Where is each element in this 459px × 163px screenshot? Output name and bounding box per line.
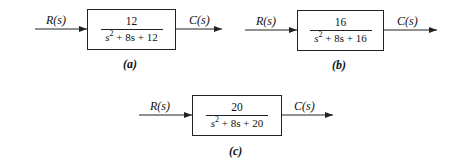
caption: (a) (123, 57, 137, 72)
input-label: R(s) (150, 100, 170, 112)
caption: (b) (332, 58, 346, 73)
denominator: s2 + 8s + 20 (211, 117, 263, 130)
caption: (c) (229, 144, 242, 159)
numerator: 16 (333, 16, 349, 29)
denominator: s2 + 8s + 12 (105, 31, 157, 44)
transfer-function-block: 20 s2 + 8s + 20 (192, 95, 282, 136)
numerator: 20 (229, 101, 245, 114)
signal-arrows (0, 0, 459, 163)
transfer-function-block: 12 s2 + 8s + 12 (87, 9, 176, 50)
transfer-function-block: 16 s2 + 8s + 16 (297, 10, 384, 51)
denominator: s2 + 8s + 16 (314, 32, 366, 45)
input-label: R(s) (46, 14, 66, 26)
input-label: R(s) (256, 15, 276, 27)
output-label: C(s) (294, 100, 315, 112)
output-label: C(s) (397, 15, 418, 27)
output-label: C(s) (189, 14, 210, 26)
numerator: 12 (124, 15, 140, 28)
block-diagrams-figure: R(s) 12 s2 + 8s + 12 C(s) (a) R(s) 16 s2… (0, 0, 459, 163)
